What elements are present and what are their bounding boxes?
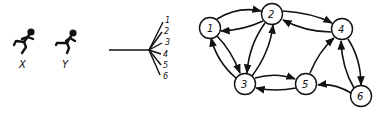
graph-node-5: 5 — [296, 74, 317, 95]
graph-node-1: 1 — [200, 18, 221, 39]
edge-3-to-5 — [255, 75, 295, 79]
graph-node-3: 3 — [235, 74, 256, 95]
node-label-5: 5 — [302, 79, 308, 90]
fan-label-1: 1 — [165, 16, 170, 25]
edge-2-to-1 — [221, 21, 263, 31]
fan-label-3: 3 — [165, 38, 170, 47]
fan-label-2: 2 — [164, 27, 169, 36]
edge-5-to-4 — [310, 38, 334, 73]
figure-x-label: X — [18, 59, 27, 70]
running-figure-x: X — [14, 28, 35, 70]
graph-node-6: 6 — [351, 86, 372, 107]
edge-1-to-3 — [217, 36, 240, 73]
branching-fan: 1 2 3 4 5 6 — [109, 16, 170, 81]
edge-2-to-4 — [283, 11, 332, 23]
node-label-4: 4 — [338, 24, 344, 35]
edge-5-to-3 — [256, 88, 296, 90]
fan-label-5: 5 — [163, 61, 168, 70]
graph-node-4: 4 — [332, 19, 353, 40]
edge-4-to-6 — [348, 39, 361, 85]
fan-branch-2 — [149, 32, 162, 50]
fan-label-4: 4 — [163, 50, 168, 59]
node-label-1: 1 — [207, 23, 213, 34]
edge-6-to-4 — [341, 41, 354, 88]
node-label-6: 6 — [357, 91, 363, 102]
node-label-3: 3 — [241, 79, 247, 90]
fan-label-6: 6 — [163, 72, 168, 81]
edge-6-to-5 — [318, 85, 351, 93]
node-label-2: 2 — [268, 9, 274, 20]
edge-3-to-2 — [252, 25, 273, 76]
edge-1-to-2 — [217, 10, 261, 19]
figure-y-label: Y — [62, 59, 69, 70]
diagram-canvas: X Y 1 2 3 4 5 6 — [0, 0, 381, 117]
running-figure-y: Y — [56, 29, 77, 70]
edge-4-to-2 — [283, 20, 331, 32]
edge-2-to-3 — [247, 23, 265, 73]
graph-node-2: 2 — [262, 4, 283, 25]
